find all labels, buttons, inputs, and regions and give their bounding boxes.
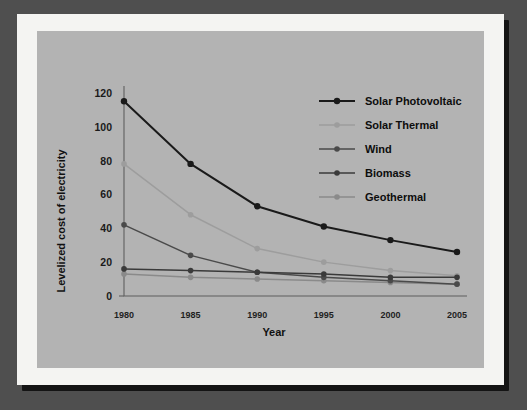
data-point	[121, 266, 127, 272]
series-line-wind	[124, 225, 457, 284]
data-point	[254, 276, 260, 282]
y-tick-label: 120	[94, 87, 112, 99]
data-point	[121, 271, 127, 277]
legend-swatch-marker	[334, 170, 340, 176]
x-axis-title: Year	[262, 326, 286, 338]
line-chart: 020406080100120 198019851990199520002005…	[37, 31, 484, 368]
x-tick-label: 2000	[380, 310, 400, 320]
data-point	[187, 161, 193, 167]
legend-label: Solar Photovoltaic	[365, 95, 462, 107]
x-tick-label: 2005	[447, 310, 467, 320]
data-point	[188, 253, 194, 259]
chart-legend: Solar PhotovoltaicSolar ThermalWindBioma…	[319, 95, 462, 203]
data-point	[454, 249, 460, 255]
data-point	[387, 237, 393, 243]
x-tick-label: 1980	[114, 310, 134, 320]
data-point	[121, 161, 127, 167]
data-point	[121, 98, 127, 104]
y-axis-title: Levelized cost of electricity	[55, 149, 67, 293]
legend-label: Biomass	[365, 167, 411, 179]
y-tick-label: 80	[100, 155, 112, 167]
x-tick-label: 1995	[314, 310, 334, 320]
y-tick-label: 20	[100, 256, 112, 268]
x-tick-label: 1985	[181, 310, 201, 320]
data-point	[321, 271, 327, 277]
y-tick-label: 100	[94, 121, 112, 133]
legend-swatch-marker	[334, 122, 340, 128]
series-line-solar-thermal	[124, 164, 457, 276]
chart-svg: 020406080100120 198019851990199520002005…	[37, 31, 484, 368]
data-point	[388, 268, 394, 274]
data-point	[188, 268, 194, 274]
x-tick-label: 1990	[247, 310, 267, 320]
data-point	[188, 275, 194, 281]
x-tick-labels: 198019851990199520002005	[114, 310, 467, 320]
chart-panel: 020406080100120 198019851990199520002005…	[37, 31, 484, 368]
legend-label: Solar Thermal	[365, 119, 438, 131]
y-tick-labels: 020406080100120	[94, 87, 112, 302]
data-point	[254, 269, 260, 275]
legend-swatch-marker	[334, 146, 340, 152]
data-point	[254, 203, 260, 209]
legend-label: Wind	[365, 143, 392, 155]
data-point	[454, 281, 460, 287]
y-tick-label: 60	[100, 188, 112, 200]
data-point	[321, 259, 327, 265]
white-frame: 020406080100120 198019851990199520002005…	[17, 14, 504, 385]
legend-label: Geothermal	[365, 191, 426, 203]
data-point	[188, 212, 194, 218]
data-point	[254, 246, 260, 252]
data-point	[388, 275, 394, 281]
y-tick-label: 40	[100, 222, 112, 234]
y-tick-label: 0	[106, 290, 112, 302]
legend-swatch-marker	[334, 194, 340, 200]
data-point	[121, 222, 127, 228]
data-point	[321, 223, 327, 229]
legend-swatch-marker	[334, 98, 340, 104]
data-point	[454, 275, 460, 281]
